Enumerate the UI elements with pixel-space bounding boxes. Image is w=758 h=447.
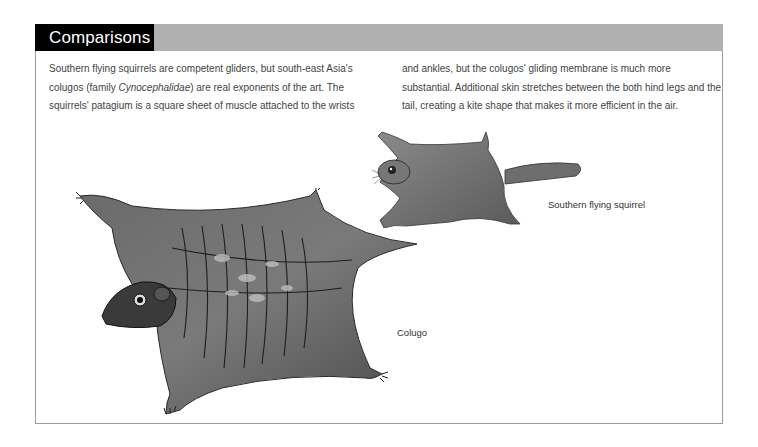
- text-column-1: Southern flying squirrels are competent …: [49, 60, 369, 116]
- text-column-2: and ankles, but the colugos' gliding mem…: [402, 60, 722, 116]
- colugo-ear: [154, 287, 170, 301]
- colugo-caption: Colugo: [397, 327, 427, 338]
- squirrel-tail: [505, 163, 581, 184]
- section-title: Comparisons: [35, 24, 154, 51]
- squirrel-caption: Southern flying squirrel: [548, 199, 645, 210]
- squirrel-eye: [388, 166, 396, 174]
- colugo-illustration: [72, 188, 427, 416]
- family-name: Cynocephalidae: [118, 82, 190, 93]
